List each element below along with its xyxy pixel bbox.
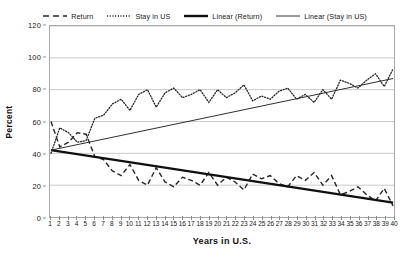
y-tick-mark	[43, 121, 46, 122]
x-tick-label: 17	[188, 220, 195, 227]
x-tick-label: 14	[161, 220, 168, 227]
x-tick-label: 10	[126, 220, 133, 227]
x-tick-label: 19	[205, 220, 212, 227]
x-tick-mark	[368, 216, 369, 220]
data-series-layer	[50, 26, 394, 217]
y-tick-label: 60	[32, 117, 41, 126]
legend-swatch-dashed-line-icon	[42, 12, 68, 20]
x-tick-label: 1	[48, 220, 52, 227]
x-tick-label: 38	[373, 220, 380, 227]
legend-swatch-thin-solid-line-icon	[275, 12, 301, 20]
legend-label-stay-in-us: Stay in US	[135, 12, 170, 21]
x-tick-mark	[271, 216, 272, 220]
y-tick-mark	[43, 25, 46, 26]
x-tick-label: 39	[382, 220, 389, 227]
series-line-return	[51, 122, 393, 206]
x-tick-label: 34	[338, 220, 345, 227]
x-axis: 1234567891011121314151617181920212223242…	[49, 220, 395, 232]
x-tick-mark	[394, 216, 395, 220]
legend-item-linear-return: Linear (Return)	[183, 12, 262, 21]
x-tick-label: 18	[196, 220, 203, 227]
legend-label-return: Return	[71, 12, 93, 21]
x-tick-label: 12	[144, 220, 151, 227]
x-tick-label: 3	[66, 220, 70, 227]
x-tick-mark	[350, 216, 351, 220]
x-tick-mark	[112, 216, 113, 220]
y-tick-mark	[43, 57, 46, 58]
x-tick-mark	[165, 216, 166, 220]
x-tick-label: 21	[223, 220, 230, 227]
y-tick-label: 0	[37, 214, 41, 223]
x-tick-label: 2	[57, 220, 61, 227]
x-tick-mark	[306, 216, 307, 220]
trendline-linear-stay-in-us-	[51, 79, 393, 151]
x-tick-label: 40	[390, 220, 397, 227]
legend-item-stay-in-us: Stay in US	[106, 12, 170, 21]
legend-item-linear-stay-in-us: Linear (Stay in US)	[275, 12, 367, 21]
x-tick-mark	[235, 216, 236, 220]
y-tick-mark	[43, 89, 46, 90]
y-tick-label: 40	[32, 149, 41, 158]
x-tick-mark	[262, 216, 263, 220]
x-tick-mark	[50, 216, 51, 220]
x-tick-mark	[138, 216, 139, 220]
x-tick-mark	[68, 216, 69, 220]
x-tick-mark	[156, 216, 157, 220]
x-tick-label: 23	[241, 220, 248, 227]
y-tick-label: 20	[32, 181, 41, 190]
x-tick-label: 6	[92, 220, 96, 227]
legend-swatch-dotted-line-icon	[106, 12, 132, 20]
x-tick-label: 24	[249, 220, 256, 227]
x-tick-label: 30	[302, 220, 309, 227]
x-tick-label: 20	[214, 220, 221, 227]
x-tick-mark	[129, 216, 130, 220]
x-tick-label: 28	[285, 220, 292, 227]
x-tick-mark	[253, 216, 254, 220]
legend-label-linear-return: Linear (Return)	[212, 12, 262, 21]
x-tick-mark	[218, 216, 219, 220]
trendline-linear-return-	[51, 150, 393, 203]
x-tick-mark	[341, 216, 342, 220]
x-tick-mark	[59, 216, 60, 220]
x-tick-mark	[103, 216, 104, 220]
chart-container: Return Stay in US Linear (Return) Linear…	[0, 0, 409, 257]
x-tick-label: 32	[320, 220, 327, 227]
x-tick-label: 36	[355, 220, 362, 227]
x-tick-label: 13	[152, 220, 159, 227]
x-tick-label: 33	[329, 220, 336, 227]
x-tick-label: 15	[170, 220, 177, 227]
y-tick-mark	[43, 153, 46, 154]
x-tick-mark	[244, 216, 245, 220]
x-tick-mark	[297, 216, 298, 220]
y-tick-mark	[43, 218, 46, 219]
x-tick-mark	[376, 216, 377, 220]
plot-area	[49, 25, 395, 218]
x-tick-label: 9	[119, 220, 123, 227]
x-tick-label: 16	[179, 220, 186, 227]
x-tick-label: 11	[135, 220, 142, 227]
x-tick-label: 7	[101, 220, 105, 227]
x-tick-mark	[385, 216, 386, 220]
y-axis: Percent 020406080100120	[0, 25, 46, 218]
x-tick-mark	[315, 216, 316, 220]
x-tick-mark	[332, 216, 333, 220]
x-axis-title: Years in U.S.	[49, 236, 395, 246]
x-tick-mark	[76, 216, 77, 220]
x-tick-mark	[279, 216, 280, 220]
x-tick-mark	[288, 216, 289, 220]
x-tick-label: 26	[267, 220, 274, 227]
series-line-stay-in-us	[51, 69, 393, 153]
legend-swatch-thick-solid-line-icon	[183, 12, 209, 20]
x-tick-mark	[209, 216, 210, 220]
x-tick-mark	[323, 216, 324, 220]
y-tick-mark	[43, 185, 46, 186]
x-tick-label: 35	[346, 220, 353, 227]
x-tick-mark	[94, 216, 95, 220]
y-tick-label: 80	[32, 85, 41, 94]
x-tick-label: 22	[232, 220, 239, 227]
legend-label-linear-stay-in-us: Linear (Stay in US)	[304, 12, 367, 21]
x-tick-label: 8	[110, 220, 114, 227]
x-tick-mark	[121, 216, 122, 220]
x-tick-label: 27	[276, 220, 283, 227]
x-tick-mark	[200, 216, 201, 220]
